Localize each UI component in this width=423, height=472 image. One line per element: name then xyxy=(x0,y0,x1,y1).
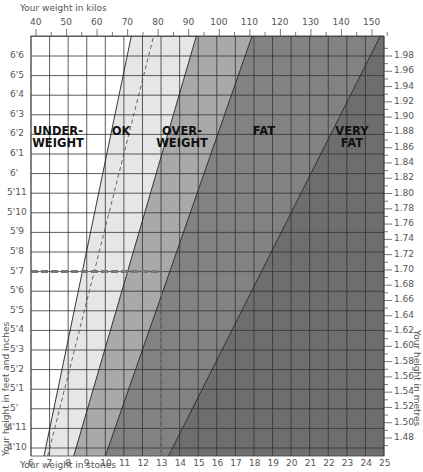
height-ft-tick-label: 5'6 xyxy=(10,285,24,295)
height-ft-tick-label: 5'9 xyxy=(10,226,24,236)
band-label-line: WEIGHT xyxy=(32,137,84,149)
height-ft-tick-label: 6'5 xyxy=(10,70,24,80)
stone-tick-label: 21 xyxy=(305,458,316,468)
height-ft-tick-label: 5'1 xyxy=(10,383,24,393)
kilo-tick-label: 140 xyxy=(332,17,349,27)
kilo-tick-label: 120 xyxy=(271,17,288,27)
height-ft-tick-label: 5'4 xyxy=(10,324,24,334)
band-label-line: WEIGHT xyxy=(156,137,208,149)
height-m-tick-label: 1.80 xyxy=(394,188,414,198)
stone-tick-label: 20 xyxy=(286,458,297,468)
kilo-tick-label: 50 xyxy=(61,17,72,27)
stone-tick-label: 15 xyxy=(193,458,204,468)
stone-tick-label: 17 xyxy=(230,458,241,468)
height-ft-tick-label: 6'6 xyxy=(10,50,24,60)
kilo-tick-label: 130 xyxy=(302,17,319,27)
height-m-tick-label: 1.74 xyxy=(394,233,414,243)
bottom-axis-title: Your weight in stones xyxy=(20,460,116,470)
height-ft-tick-label: 5'2 xyxy=(10,364,24,374)
height-m-tick-label: 1.68 xyxy=(394,279,414,289)
band-label-line: OK xyxy=(112,125,131,137)
height-m-tick-label: 1.90 xyxy=(394,111,414,121)
kilo-tick-label: 110 xyxy=(241,17,258,27)
stone-tick-label: 14 xyxy=(175,458,186,468)
band-label-very-fat: VERYFAT xyxy=(335,125,368,149)
height-m-tick-label: 1.48 xyxy=(394,432,414,442)
height-m-tick-label: 1.92 xyxy=(394,96,414,106)
left-axis-title: Your height in feet and inches xyxy=(1,322,11,456)
stone-tick-label: 24 xyxy=(360,458,371,468)
kilo-tick-label: 70 xyxy=(122,17,133,27)
band-label-fat: FAT xyxy=(253,125,275,137)
height-ft-tick-label: 5'3 xyxy=(10,344,24,354)
chart-plot xyxy=(0,0,423,472)
kilo-tick-label: 60 xyxy=(91,17,102,27)
height-ft-tick-label: 6' xyxy=(10,168,18,178)
height-m-tick-label: 1.86 xyxy=(394,142,414,152)
height-m-tick-label: 1.78 xyxy=(394,203,414,213)
height-m-tick-label: 1.82 xyxy=(394,172,414,182)
height-ft-tick-label: 6'3 xyxy=(10,109,24,119)
stone-tick-label: 13 xyxy=(156,458,167,468)
kilo-tick-label: 80 xyxy=(152,17,163,27)
height-ft-tick-label: 5'5 xyxy=(10,305,24,315)
height-m-tick-label: 1.64 xyxy=(394,310,414,320)
height-m-tick-label: 1.70 xyxy=(394,264,414,274)
height-m-tick-label: 1.98 xyxy=(394,50,414,60)
height-m-tick-label: 1.72 xyxy=(394,249,414,259)
band-label-ok: OK xyxy=(112,125,131,137)
height-m-tick-label: 1.88 xyxy=(394,126,414,136)
band-label-line: FAT xyxy=(335,137,368,149)
stone-tick-label: 25 xyxy=(379,458,390,468)
stone-tick-label: 23 xyxy=(342,458,353,468)
band-label-line: FAT xyxy=(253,125,275,137)
height-ft-tick-label: 6'4 xyxy=(10,89,24,99)
band-label-over-weight: OVER-WEIGHT xyxy=(156,125,208,149)
kilo-tick-label: 40 xyxy=(30,17,41,27)
right-axis-title: Your height in metres xyxy=(412,330,422,426)
height-ft-tick-label: 5' xyxy=(10,403,18,413)
stone-tick-label: 11 xyxy=(119,458,130,468)
height-m-tick-label: 1.84 xyxy=(394,157,414,167)
kilo-tick-label: 150 xyxy=(363,17,380,27)
height-ft-tick-label: 6'2 xyxy=(10,128,24,138)
stone-tick-label: 12 xyxy=(137,458,148,468)
stone-tick-label: 19 xyxy=(268,458,279,468)
stone-tick-label: 18 xyxy=(249,458,260,468)
stone-tick-label: 16 xyxy=(212,458,223,468)
height-m-tick-label: 1.96 xyxy=(394,65,414,75)
height-ft-tick-label: 5'8 xyxy=(10,246,24,256)
height-m-tick-label: 1.94 xyxy=(394,81,414,91)
height-m-tick-label: 1.76 xyxy=(394,218,414,228)
band-label-under-weight: UNDER-WEIGHT xyxy=(32,125,84,149)
height-ft-tick-label: 5'11 xyxy=(7,187,27,197)
height-m-tick-label: 1.66 xyxy=(394,294,414,304)
kilo-tick-label: 100 xyxy=(210,17,227,27)
height-ft-tick-label: 6'1 xyxy=(10,148,24,158)
height-ft-tick-label: 5'7 xyxy=(10,266,24,276)
height-ft-tick-label: 5'10 xyxy=(7,207,27,217)
top-axis-title: Your weight in kilos xyxy=(20,3,107,13)
stone-tick-label: 22 xyxy=(323,458,334,468)
kilo-tick-label: 90 xyxy=(183,17,194,27)
